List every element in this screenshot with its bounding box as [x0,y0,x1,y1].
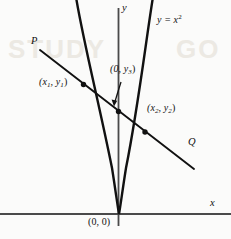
x2y2-suffix: ) [172,102,175,113]
x1y1-sub1: 1 [47,81,51,89]
secant-start-label-p: P [31,36,38,47]
origin-label: (0, 0) [88,217,110,227]
curve-equation-label: y = x2 [157,15,182,25]
x2y2-sub1: 2 [155,107,159,115]
x1y1-suffix: ) [64,76,67,87]
curve-equation-exponent: 2 [178,13,182,21]
y3-suffix: ) [132,63,135,74]
secant-end-label-q: Q [188,137,196,148]
x1y1-prefix: (x [39,76,47,87]
point-marker-x1y1 [81,82,86,87]
point-label-x1y1: (x1, y1) [39,77,67,87]
point-marker-y-intercept [116,109,121,114]
y3-prefix: (0, y [110,63,128,74]
curve-equation-lead: y = x [157,14,178,25]
point-label-x2y2: (x2, y2) [147,103,175,113]
y3-sub: 3 [128,68,132,76]
x1y1-sub2: 1 [60,81,64,89]
math-figure-parabola-secant: STUDY GO y x y = x2 P Q (x1, y1) (x2, y2… [0,0,231,239]
y-axis-label: y [122,3,127,14]
x2y2-mid: , y [159,102,169,113]
x1y1-mid: , y [51,76,61,87]
point-marker-x2y2 [142,129,147,134]
x2y2-sub2: 2 [168,107,172,115]
x-axis-label: x [210,198,215,209]
x2y2-prefix: (x [147,102,155,113]
point-label-y-intercept: (0, y3) [110,64,135,74]
